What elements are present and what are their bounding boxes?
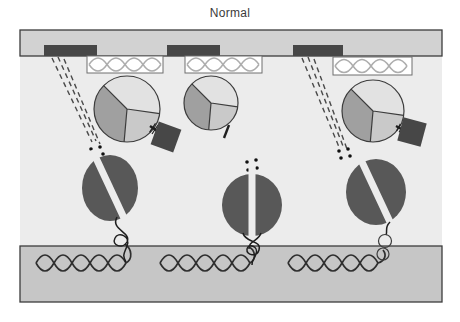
coiled-receptor-boxes (87, 56, 412, 75)
membrane-protein-rect (293, 45, 343, 56)
membrane-protein-rect (44, 45, 97, 56)
figure-normal-panel: Normal (0, 0, 460, 322)
coiled-receptor-box (185, 56, 262, 73)
membrane-protein-rects (44, 45, 343, 56)
protein-synthesis-diagram (0, 0, 460, 322)
coiled-receptor-box (333, 57, 412, 75)
folded-protein-pie-right (342, 80, 404, 142)
nucleus-bar (20, 246, 442, 302)
coiled-receptor-box (87, 56, 163, 73)
membrane-protein-rect (167, 45, 220, 56)
